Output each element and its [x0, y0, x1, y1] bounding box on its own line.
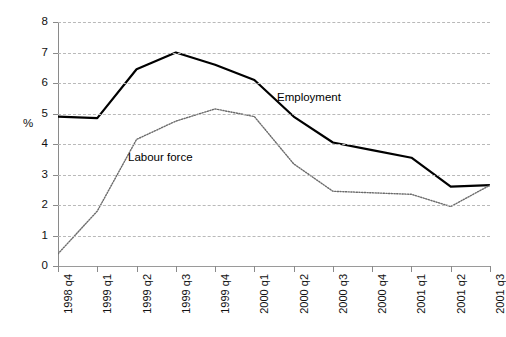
gridline	[58, 205, 490, 206]
y-axis-tick-mark	[53, 144, 58, 145]
gridline	[58, 236, 490, 237]
y-axis-tick-label: 3	[42, 169, 48, 181]
x-axis-tick-mark	[215, 266, 216, 272]
series-label-employment: Employment	[277, 92, 341, 104]
x-axis-tick-label: 2000 q2	[299, 274, 310, 314]
x-axis-tick-mark	[254, 266, 255, 272]
y-axis-tick-mark	[53, 114, 58, 115]
x-axis-tick-mark	[58, 266, 59, 272]
y-axis-tick-mark	[53, 83, 58, 84]
x-axis-tick-mark	[294, 266, 295, 272]
x-axis-tick-label: 2001 q1	[416, 274, 427, 314]
y-axis-tick-mark	[53, 175, 58, 176]
y-axis-tick-label: 5	[42, 108, 48, 120]
series-label-labour-force: Labour force	[128, 152, 193, 164]
y-axis-tick-mark	[53, 205, 58, 206]
y-axis-tick-label: 8	[42, 16, 48, 28]
y-axis-tick-label: 2	[42, 199, 48, 211]
y-axis-tick-label: 0	[42, 260, 48, 272]
x-axis-tick-mark	[137, 266, 138, 272]
y-axis-tick-labels: 012345678	[0, 22, 48, 266]
x-axis-tick-mark	[97, 266, 98, 272]
x-axis-tick-label: 2000 q1	[259, 274, 270, 314]
x-axis-tick-mark	[333, 266, 334, 272]
x-axis-tick-label: 1998 q4	[63, 274, 74, 314]
x-axis-tick-mark	[372, 266, 373, 272]
x-axis-tick-mark	[411, 266, 412, 272]
x-axis-tick-mark	[490, 266, 491, 272]
series-line-employment	[58, 53, 490, 187]
x-axis-tick-mark	[451, 266, 452, 272]
x-axis-tick-label: 1999 q3	[181, 274, 192, 314]
series-line-labour-force	[58, 109, 490, 254]
gridline	[58, 22, 490, 23]
gridline	[58, 266, 490, 267]
gridline	[58, 114, 490, 115]
gridline	[58, 175, 490, 176]
x-axis-tick-label: 1999 q1	[102, 274, 113, 314]
y-axis-tick-label: 4	[42, 138, 48, 150]
gridline	[58, 144, 490, 145]
x-axis-tick-label: 2000 q4	[377, 274, 388, 314]
y-axis-tick-mark	[53, 53, 58, 54]
y-axis-tick-label: 7	[42, 47, 48, 59]
x-axis-tick-label: 1999 q4	[220, 274, 231, 314]
y-axis-tick-mark	[53, 236, 58, 237]
x-axis-tick-label: 1999 q2	[142, 274, 153, 314]
y-axis-tick-label: 6	[42, 77, 48, 89]
gridline	[58, 53, 490, 54]
gridline	[58, 83, 490, 84]
x-axis-tick-label: 2001 q3	[495, 274, 506, 314]
y-axis-tick-mark	[53, 266, 58, 267]
x-axis-tick-mark	[176, 266, 177, 272]
x-axis-tick-label: 2001 q2	[456, 274, 467, 314]
plot-area	[58, 22, 490, 266]
x-axis-tick-label: 2000 q3	[338, 274, 349, 314]
y-axis-tick-mark	[53, 22, 58, 23]
y-axis-title: %	[23, 118, 33, 130]
y-axis-tick-label: 1	[42, 230, 48, 242]
